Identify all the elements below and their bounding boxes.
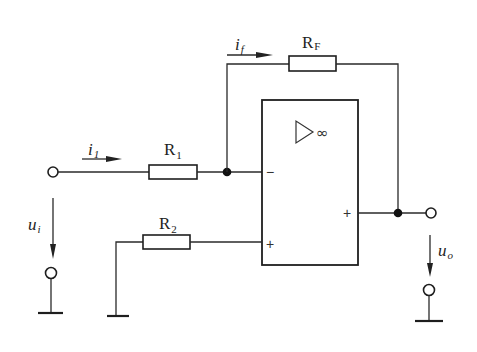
label-r1: R1 — [164, 140, 182, 161]
arrow-head-icon — [50, 244, 56, 259]
output-sign: + — [343, 205, 351, 221]
input-terminal — [48, 167, 58, 177]
input-ground-terminal — [46, 268, 57, 279]
circuit-diagram: i1 R1 if RF ∞ − + + R2 ui uo — [0, 0, 477, 352]
label-rf: RF — [302, 33, 320, 52]
wire-ground-r2 — [116, 242, 143, 316]
gain-infinity-symbol: ∞ — [316, 124, 329, 142]
output-ground-terminal — [424, 285, 435, 296]
opamp-box — [262, 100, 358, 265]
arrow-head-icon — [427, 263, 433, 277]
resistor-r1 — [149, 165, 197, 179]
resistor-r2 — [143, 235, 190, 249]
label-ui: ui — [28, 215, 41, 235]
label-uo: uo — [438, 241, 454, 261]
arrow-head-icon — [106, 156, 122, 162]
label-r2: R2 — [159, 214, 177, 235]
inverting-input-sign: − — [266, 164, 274, 180]
label-i1: i1 — [88, 140, 99, 160]
noninverting-input-sign: + — [266, 236, 274, 252]
junction-dot-output — [394, 209, 403, 218]
output-terminal — [426, 208, 436, 218]
resistor-rf — [289, 56, 336, 71]
arrow-head-icon — [256, 52, 273, 58]
label-if: if — [235, 35, 246, 55]
